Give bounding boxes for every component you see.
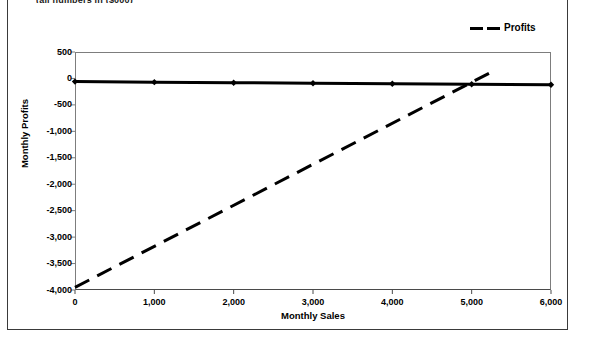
x-tick-label: 3,000 bbox=[283, 297, 343, 307]
x-tick-label: 0 bbox=[45, 297, 105, 307]
plot-area: 5000-500-1,000-1,500-2,000-2,500-3,000-3… bbox=[0, 0, 590, 349]
chart-figure: (all numbers in ($000) Profits 5000-500-… bbox=[0, 0, 590, 349]
x-axis-ticks: 01,0002,0003,0004,0005,0006,000 bbox=[0, 0, 590, 349]
x-tick-label: 4,000 bbox=[362, 297, 422, 307]
x-tick-label: 5,000 bbox=[442, 297, 502, 307]
x-tick-label: 6,000 bbox=[521, 297, 581, 307]
y-axis-title: Monthly Profits bbox=[19, 74, 30, 194]
x-tick-label: 1,000 bbox=[124, 297, 184, 307]
x-axis-title: Monthly Sales bbox=[75, 310, 551, 321]
x-tick-label: 2,000 bbox=[204, 297, 264, 307]
